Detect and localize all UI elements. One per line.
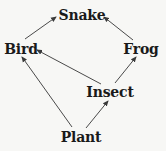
arrow-plant-to-bird [22, 57, 72, 127]
arrow-insect-to-frog [115, 57, 136, 83]
node-plant: Plant [61, 129, 102, 145]
arrow-plant-to-insect [86, 101, 108, 128]
arrow-bird-to-snake [25, 17, 56, 39]
node-frog: Frog [123, 41, 158, 57]
arrow-frog-to-snake [104, 17, 133, 40]
node-bird: Bird [4, 41, 38, 57]
node-snake: Snake [59, 7, 106, 23]
node-insect: Insect [86, 84, 133, 100]
arrow-insect-to-bird [37, 50, 101, 84]
food-web-diagram: Snake Bird Frog Insect Plant [0, 0, 166, 151]
